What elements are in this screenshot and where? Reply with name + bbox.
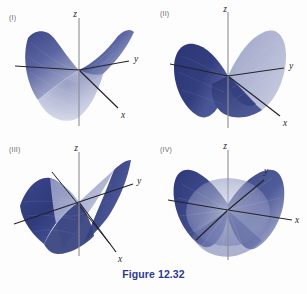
y-axis-label-4: y bbox=[263, 166, 269, 176]
x-axis-label-2: x bbox=[282, 118, 288, 128]
z-axis-label-4: z bbox=[222, 141, 227, 151]
y-axis-label-1: y bbox=[133, 54, 139, 64]
z-axis-label-1: z bbox=[72, 9, 77, 19]
surface-plot-1: z y x bbox=[0, 8, 153, 136]
surface-plot-4: z y x bbox=[152, 140, 305, 266]
figure-caption: Figure 12.32 bbox=[0, 268, 307, 280]
x-axis-label-1: x bbox=[120, 110, 126, 120]
z-axis-label-3: z bbox=[73, 143, 78, 153]
y-axis-label-3: y bbox=[136, 176, 142, 186]
panel-surface-1: z y x bbox=[0, 8, 153, 136]
y-axis-label-2: y bbox=[288, 61, 294, 71]
panel-surface-3: z y x bbox=[0, 140, 153, 268]
panel-surface-2: z y x bbox=[152, 4, 305, 132]
figure-container: (I) bbox=[0, 0, 307, 294]
z-axis-label-2: z bbox=[222, 4, 227, 14]
panel-surface-4: z y x bbox=[152, 140, 305, 268]
surface-plot-2: z y x bbox=[152, 4, 305, 136]
x-axis-label-3: x bbox=[117, 254, 123, 264]
surface-plot-3: z y x bbox=[0, 140, 153, 266]
x-axis-label-4: x bbox=[294, 215, 300, 225]
